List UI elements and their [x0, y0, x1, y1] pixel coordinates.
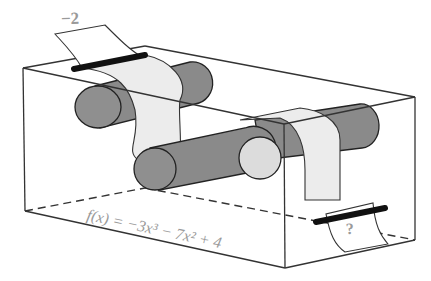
output-value-label: ? [345, 220, 354, 239]
function-machine-diagram: −2 ? f(x) = −3x³ − 7x² + 4 [0, 0, 431, 281]
input-value-label: −2 [61, 9, 80, 30]
